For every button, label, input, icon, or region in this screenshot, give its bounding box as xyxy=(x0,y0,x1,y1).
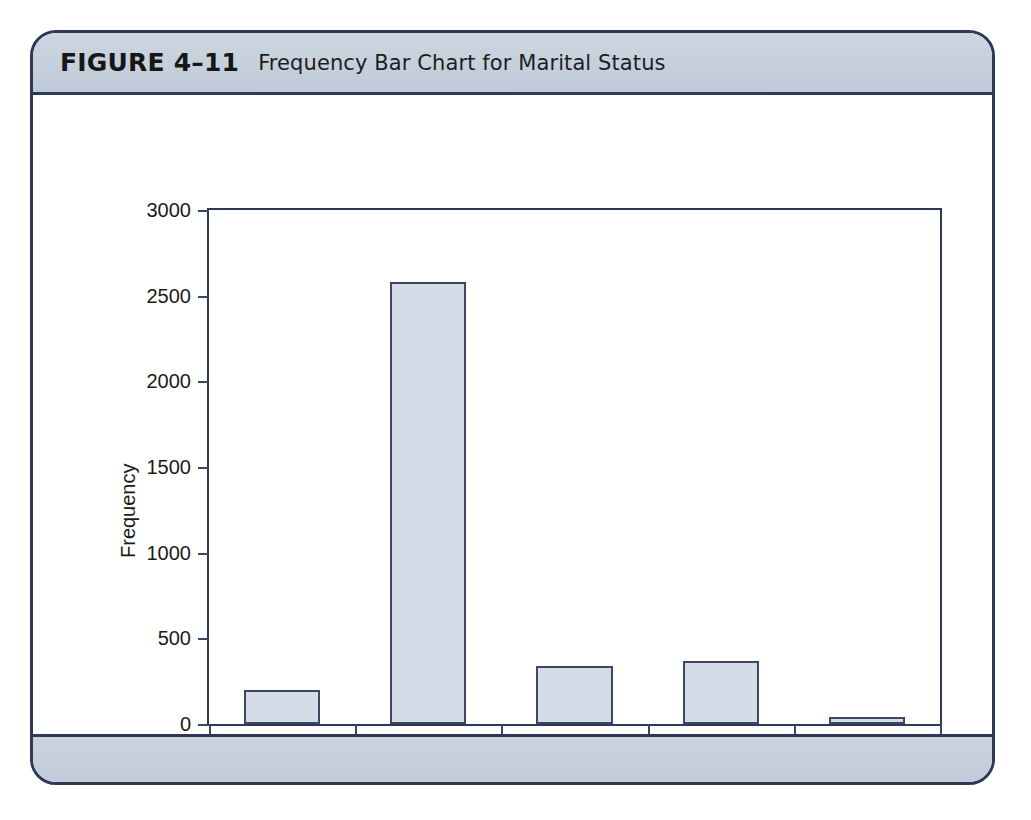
y-axis-tick xyxy=(198,724,209,726)
y-axis-tick-label: 500 xyxy=(158,627,191,650)
y-axis-tick xyxy=(198,467,209,469)
figure-header: FIGURE 4–11 Frequency Bar Chart for Mari… xyxy=(33,33,992,95)
y-axis-tick xyxy=(198,381,209,383)
bar-separated xyxy=(829,717,905,724)
bars-layer xyxy=(209,210,940,724)
figure-frame: FIGURE 4–11 Frequency Bar Chart for Mari… xyxy=(30,30,995,785)
bar-married xyxy=(390,282,466,724)
figure-footer xyxy=(33,734,992,782)
y-axis-tick xyxy=(198,638,209,640)
y-axis-tick-label: 2000 xyxy=(147,370,192,393)
bar-divorced xyxy=(683,661,759,724)
y-axis-tick-label: 2500 xyxy=(147,284,192,307)
chart-area: 050010001500200025003000SingleMarriedWid… xyxy=(33,95,992,740)
bar-single xyxy=(244,690,320,724)
plot-frame: 050010001500200025003000SingleMarriedWid… xyxy=(207,208,942,726)
figure-number: FIGURE 4–11 xyxy=(60,48,239,77)
y-axis-title: Frequency xyxy=(117,464,140,559)
y-axis-tick-label: 1500 xyxy=(147,456,192,479)
y-axis-tick-label: 1000 xyxy=(147,541,192,564)
y-axis-tick-label: 3000 xyxy=(147,199,192,222)
y-axis-tick xyxy=(198,553,209,555)
y-axis-tick xyxy=(198,296,209,298)
y-axis-tick xyxy=(198,210,209,212)
y-axis-tick-label: 0 xyxy=(180,713,191,736)
bar-widowed xyxy=(536,666,612,724)
figure-caption: Frequency Bar Chart for Marital Status xyxy=(258,51,665,75)
